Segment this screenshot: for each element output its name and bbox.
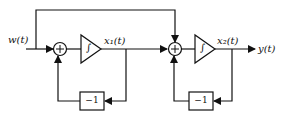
feedback-1-to-sum [58, 56, 80, 101]
feedback-2-to-sum [174, 56, 189, 101]
integral-icon-1: ∫ [86, 43, 91, 53]
block-diagram: w(t) x₁(t) x₂(t) y(t) ∫ ∫ −1 −1 [0, 0, 287, 118]
gain-2-label: −1 [189, 96, 213, 105]
feedback-1-return [105, 49, 126, 101]
integral-icon-2: ∫ [200, 43, 205, 53]
input-label: w(t) [8, 35, 28, 45]
feedback-2-return [214, 49, 232, 101]
state1-label: x₁(t) [104, 36, 125, 46]
state2-label: x₂(t) [217, 36, 238, 46]
output-label: y(t) [258, 44, 275, 54]
gain-1-label: −1 [80, 96, 104, 105]
diagram-lines [0, 0, 287, 118]
